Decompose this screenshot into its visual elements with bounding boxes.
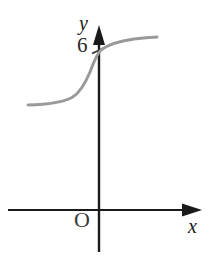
sigmoid-curve bbox=[28, 37, 157, 105]
x-axis-label: x bbox=[188, 216, 197, 236]
y-intercept-value-label: 6 bbox=[77, 35, 88, 56]
graph-figure: y x 6 O bbox=[0, 0, 209, 258]
origin-label: O bbox=[74, 209, 90, 231]
y-axis-arrow-icon bbox=[93, 25, 105, 45]
y-axis-label: y bbox=[79, 13, 88, 33]
coordinate-plot bbox=[0, 0, 209, 258]
